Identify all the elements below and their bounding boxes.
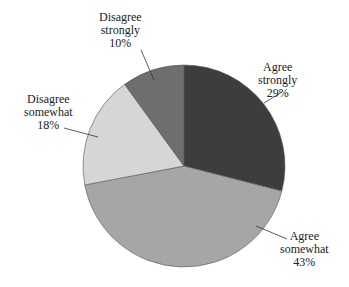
label-pct: 10% bbox=[99, 37, 142, 50]
label-agree-strongly: Agree strongly 29% bbox=[258, 61, 297, 100]
label-pct: 29% bbox=[258, 87, 297, 100]
label-agree-somewhat: Agree somewhat 43% bbox=[280, 230, 329, 269]
label-disagree-strongly: Disagree strongly 10% bbox=[99, 11, 142, 50]
label-disagree-somewhat: Disagree somewhat 18% bbox=[24, 93, 73, 132]
label-pct: 18% bbox=[24, 119, 73, 132]
label-pct: 43% bbox=[280, 256, 329, 269]
